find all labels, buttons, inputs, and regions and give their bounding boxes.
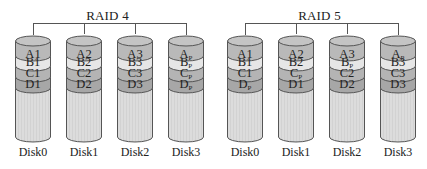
block-label: D (180, 77, 189, 91)
parity-subscript: P (189, 84, 193, 92)
data-block: D1 (278, 78, 314, 90)
disk-cylinder: A3B3C3D3 (117, 31, 153, 143)
block-label: D1 (288, 77, 303, 91)
connector-bracket (245, 23, 399, 35)
raid-title: RAID 5 (212, 8, 427, 24)
disk-label: Disk1 (59, 145, 109, 160)
data-block: D1 (15, 78, 51, 90)
raid-group-raid5: RAID 5A1B1C1DPDisk0A2B2CPD1Disk1A3BPC2D2… (212, 0, 427, 169)
block-label: D2 (339, 77, 354, 91)
disk-cylinder: A2B2C2D2 (66, 31, 102, 143)
block-label: D1 (25, 77, 40, 91)
raid-group-raid4: RAID 4A1B1C1D1Disk0A2B2C2D2Disk1A3B3C3D3… (0, 0, 215, 169)
disk-cylinder: APBPCPDP (168, 31, 204, 143)
block-label: D2 (76, 77, 91, 91)
disk-cylinder: A3BPC2D2 (329, 31, 365, 143)
disk-cylinder: A2B2CPD1 (278, 31, 314, 143)
parity-subscript: P (248, 84, 252, 92)
raid-title: RAID 4 (0, 8, 215, 24)
disk-cylinder: A1B1C1DP (227, 31, 263, 143)
disk-label: Disk0 (8, 145, 58, 160)
parity-block: DP (227, 78, 263, 94)
disk-label: Disk3 (161, 145, 211, 160)
disk-cylinder: A1B1C1D1 (15, 31, 51, 143)
disk-label: Disk0 (220, 145, 270, 160)
block-label: D3 (127, 77, 142, 91)
connector-bracket (33, 23, 187, 35)
data-block: D3 (380, 78, 416, 90)
disk-cylinder: APB3C3D3 (380, 31, 416, 143)
data-block: D2 (66, 78, 102, 90)
disk-label: Disk2 (110, 145, 160, 160)
data-block: D3 (117, 78, 153, 90)
block-label: D (239, 77, 248, 91)
parity-block: DP (168, 78, 204, 94)
disk-label: Disk3 (373, 145, 423, 160)
data-block: D2 (329, 78, 365, 90)
block-label: D3 (390, 77, 405, 91)
disk-label: Disk2 (322, 145, 372, 160)
disk-label: Disk1 (271, 145, 321, 160)
